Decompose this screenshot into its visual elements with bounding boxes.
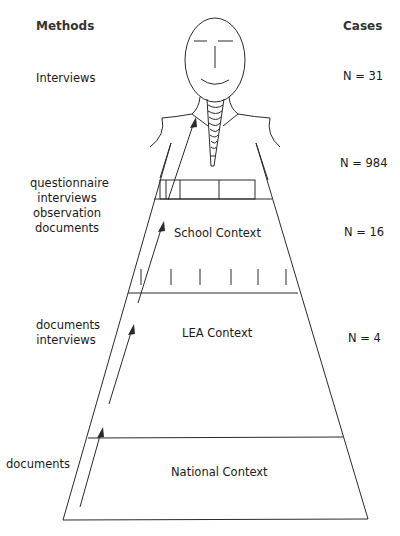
method-item: interviews xyxy=(30,191,104,206)
methods-individual: Interviews xyxy=(36,71,95,86)
method-item: documents xyxy=(36,318,96,333)
left-shoulder xyxy=(150,114,192,147)
method-item: Interviews xyxy=(36,71,95,86)
desk xyxy=(160,180,255,199)
person-figure xyxy=(150,18,280,180)
arrow-head-icon xyxy=(97,427,104,438)
desk-row xyxy=(160,180,255,199)
cases-classroom: N = 984 xyxy=(340,156,388,171)
method-item: documents xyxy=(30,221,104,236)
right-collar xyxy=(223,97,238,126)
method-item: observation xyxy=(30,206,104,221)
cases-lea: N = 4 xyxy=(348,331,381,346)
mouth xyxy=(201,79,229,84)
arrow-heads xyxy=(97,117,197,438)
method-item: questionnaire xyxy=(30,176,104,191)
cases-school: N = 16 xyxy=(344,225,384,240)
methods-lea: documents interviews xyxy=(36,318,96,348)
arrow-head-icon xyxy=(128,324,135,335)
arrow-head-icon xyxy=(190,117,197,128)
cases-individual: N = 31 xyxy=(343,69,383,84)
pyramid-base xyxy=(63,519,368,520)
method-item: interviews xyxy=(36,333,96,348)
national-top-line xyxy=(88,437,343,438)
methods-national: documents xyxy=(6,457,70,472)
method-item: documents xyxy=(6,457,70,472)
methods-school: questionnaire interviews observation doc… xyxy=(30,176,104,236)
school-context-label: School Context xyxy=(174,226,261,241)
national-context-label: National Context xyxy=(171,465,268,480)
right-shoulder xyxy=(238,114,280,147)
arrow-head-icon xyxy=(158,221,165,232)
lea-context-label: LEA Context xyxy=(182,326,252,341)
